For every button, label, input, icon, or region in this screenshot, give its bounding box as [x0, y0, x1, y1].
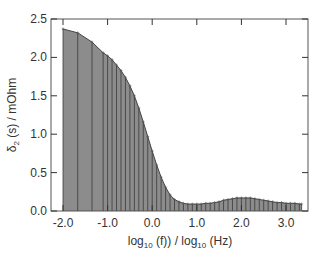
y-tick-label: 0.5	[30, 166, 47, 180]
x-tick-label: -2.0	[53, 216, 74, 230]
y-tick-label: 2.0	[30, 50, 47, 64]
plot-area	[62, 27, 304, 211]
chart: -2.0-1.00.01.02.03.0 0.00.51.01.52.02.5 …	[0, 0, 324, 254]
y-tick-label: 2.5	[30, 12, 47, 26]
x-axis-label: log10 (f)) / log10 (Hz)	[128, 234, 233, 250]
x-tick-label: 0.0	[144, 216, 161, 230]
y-tick-label: 1.0	[30, 127, 47, 141]
x-tick-label: 3.0	[278, 216, 295, 230]
x-tick-label: 2.0	[233, 216, 250, 230]
y-axis-label: δ2 (s) / mOhm	[5, 78, 21, 152]
x-tick-label: -1.0	[97, 216, 118, 230]
data-area	[63, 29, 302, 211]
y-tick-label: 1.5	[30, 89, 47, 103]
x-tick-label: 1.0	[188, 216, 205, 230]
y-tick-label: 0.0	[30, 204, 47, 218]
